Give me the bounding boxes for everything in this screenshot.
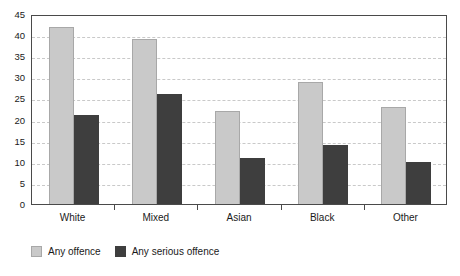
dark-gray-swatch: [115, 246, 126, 257]
y-axis-tick-label: 0: [1, 200, 25, 210]
x-axis-tick-label-other: Other: [360, 212, 450, 224]
legend-label: Any offence: [48, 246, 101, 257]
bar-group-other: [365, 16, 448, 204]
y-axis-tick-label: 10: [1, 158, 25, 168]
bar-group-mixed: [115, 16, 198, 204]
x-axis-tick-label-black: Black: [277, 212, 367, 224]
y-axis-tick-label: 35: [1, 52, 25, 62]
legend-label: Any serious offence: [132, 246, 220, 257]
y-axis-tick-label: 5: [1, 179, 25, 189]
y-axis-tick-label: 15: [1, 137, 25, 147]
legend-item-any-offence: Any offence: [31, 246, 101, 257]
bar-mixed-series-1: [157, 94, 182, 204]
plot-area: [31, 15, 447, 205]
bar-mixed-series-0: [132, 39, 157, 204]
x-axis-separator-tick: [114, 205, 115, 210]
bar-asian-series-1: [240, 158, 265, 204]
y-axis-tick-label: 45: [1, 10, 25, 20]
bar-group-white: [32, 16, 115, 204]
bar-white-series-1: [74, 115, 99, 204]
bar-chart: 051015202530354045 WhiteMixedAsianBlackO…: [0, 0, 460, 276]
x-axis-separator-tick: [197, 205, 198, 210]
bar-white-series-0: [49, 27, 74, 204]
y-axis-tick-label: 20: [1, 116, 25, 126]
bar-other-series-1: [406, 162, 431, 204]
x-axis-tick-label-mixed: Mixed: [111, 212, 201, 224]
bar-black-series-1: [323, 145, 348, 204]
chart-legend: Any offenceAny serious offence: [31, 246, 219, 257]
x-axis-tick-label-asian: Asian: [194, 212, 284, 224]
bar-group-asian: [198, 16, 281, 204]
bar-asian-series-0: [215, 111, 240, 204]
x-axis-separator-tick: [281, 205, 282, 210]
bar-group-black: [282, 16, 365, 204]
bar-black-series-0: [298, 82, 323, 204]
y-axis-tick-label: 25: [1, 94, 25, 104]
legend-item-any-serious-offence: Any serious offence: [115, 246, 220, 257]
x-axis-tick-label-white: White: [28, 212, 118, 224]
y-axis-tick-label: 40: [1, 31, 25, 41]
y-axis-tick-label: 30: [1, 73, 25, 83]
light-gray-swatch: [31, 246, 42, 257]
x-axis-separator-tick: [364, 205, 365, 210]
bar-other-series-0: [381, 107, 406, 204]
